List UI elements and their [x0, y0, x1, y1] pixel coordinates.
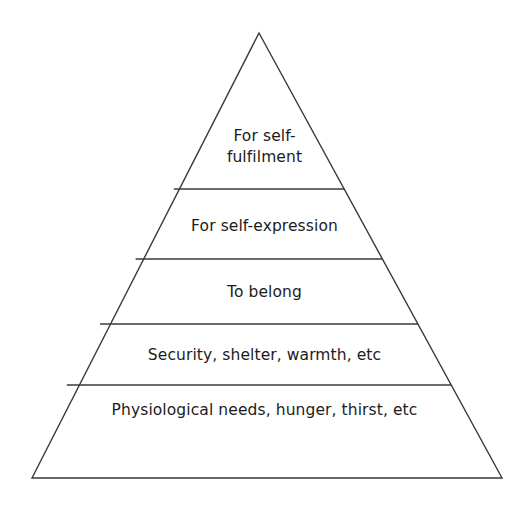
pyramid-tier-label-physiological: Physiological needs, hunger, thirst, etc [0, 400, 529, 421]
pyramid-tier-label-self-fulfilment: For self- fulfilment [0, 126, 529, 167]
pyramid-outline-svg [0, 0, 529, 505]
pyramid-tier-label-to-belong: To belong [0, 282, 529, 303]
pyramid-tier-label-security: Security, shelter, warmth, etc [0, 345, 529, 366]
pyramid-tier-label-self-expression: For self-expression [0, 216, 529, 237]
pyramid-diagram: For self- fulfilment For self-expression… [0, 0, 529, 505]
